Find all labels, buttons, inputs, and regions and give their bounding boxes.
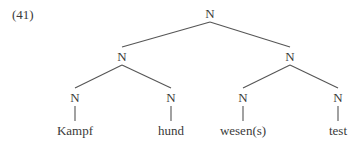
edge-left-kampf bbox=[75, 65, 122, 88]
edge-left-hund bbox=[122, 65, 171, 88]
node-preterminal-2: N bbox=[166, 91, 175, 105]
edge-root-right bbox=[210, 22, 290, 47]
leaf-hund: hund bbox=[158, 124, 184, 138]
node-preterminal-1: N bbox=[70, 91, 79, 105]
edge-right-wesens bbox=[243, 65, 290, 88]
node-preterminal-4: N bbox=[333, 91, 342, 105]
node-root: N bbox=[205, 7, 214, 21]
edge-root-left bbox=[122, 22, 210, 47]
leaf-wesens: wesen(s) bbox=[220, 124, 266, 138]
node-internal-left: N bbox=[117, 50, 126, 64]
leaf-kampf: Kampf bbox=[57, 124, 93, 138]
edge-right-test bbox=[290, 65, 338, 88]
leaf-test: test bbox=[329, 124, 347, 138]
node-internal-right: N bbox=[285, 50, 294, 64]
node-preterminal-3: N bbox=[238, 91, 247, 105]
